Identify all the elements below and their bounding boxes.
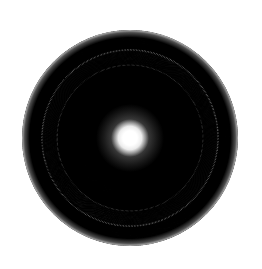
disc-edge-fade: [22, 30, 238, 246]
artwork-canvas: Op-Art Zigzag Spiral Disc Circular black…: [0, 0, 262, 269]
zigzag-spiral-disc: Op-Art Zigzag Spiral Disc Circular black…: [0, 0, 262, 269]
